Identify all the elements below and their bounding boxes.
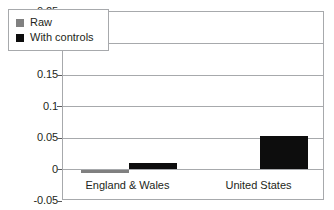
- bar-chart: 0.250.20.150.10.050-0.05 England & Wales…: [0, 0, 334, 210]
- legend-swatch-icon-raw: [16, 19, 24, 27]
- y-axis-tick: [57, 106, 62, 107]
- legend-label-with-controls: With controls: [30, 32, 94, 43]
- y-axis-tick-label: 0.1: [0, 100, 58, 111]
- y-axis-tick-label: 0: [0, 163, 58, 174]
- x-axis-label-england-wales: England & Wales: [62, 180, 193, 191]
- x-axis-label-united-states: United States: [193, 180, 324, 191]
- zero-baseline: [63, 169, 323, 170]
- y-axis-tick: [57, 169, 62, 170]
- bar-england-wales-raw: [81, 170, 129, 174]
- legend-label-raw: Raw: [30, 17, 52, 28]
- y-axis-tick: [57, 75, 62, 76]
- legend-item-with-controls: With controls: [16, 30, 94, 45]
- y-axis-tick-label: -0.05: [0, 195, 58, 206]
- y-axis-tick-label: 0.05: [0, 132, 58, 143]
- legend-item-raw: Raw: [16, 15, 94, 30]
- y-axis-tick: [57, 138, 62, 139]
- gridline: [63, 106, 323, 107]
- chart-legend: Raw With controls: [8, 9, 109, 51]
- bar-united-states-with-controls: [260, 136, 308, 169]
- legend-swatch-icon-with-controls: [16, 34, 24, 42]
- y-axis-tick-label: 0.15: [0, 69, 58, 80]
- gridline: [63, 75, 323, 76]
- y-axis-tick: [57, 201, 62, 202]
